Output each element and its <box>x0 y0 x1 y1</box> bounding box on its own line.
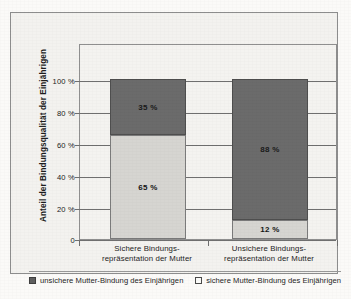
bar-segment-sichere-1[interactable]: 65 % <box>110 135 186 239</box>
category-label-unsichere-line1: Unsichere Bindungs- <box>204 244 334 254</box>
category-tick-left <box>79 240 80 246</box>
bar-segment-label-unsichere-2: 88 % <box>260 145 279 154</box>
tickmark-60 <box>75 145 80 146</box>
ytick-label-0: 0 <box>71 236 75 245</box>
y-axis-title: Anteil der Bindungsqualität der Einjähri… <box>39 41 48 231</box>
bar-segment-label-sichere-1: 65 % <box>138 183 157 192</box>
bar-series-unsichere-bindungsrepraesentation[interactable]: 88 % 12 % <box>232 79 308 239</box>
tickmark-100 <box>75 81 80 82</box>
legend-item-sichere[interactable]: sichere Mutter-Bindung des Einjährigen <box>195 276 341 285</box>
category-label-unsichere: Unsichere Bindungs- repräsentation der M… <box>204 244 334 264</box>
legend-label-sichere: sichere Mutter-Bindung des Einjährigen <box>206 276 341 285</box>
bar-segment-label-unsichere-1: 35 % <box>138 103 157 112</box>
plot-area: 100 % 80 % 60 % 40 % 20 % 0 <box>79 44 337 240</box>
ytick-label-100: 100 % <box>52 77 75 86</box>
tickmark-40 <box>75 177 80 178</box>
category-label-sichere-line1: Sichere Bindungs- <box>82 244 212 254</box>
tickmark-80 <box>75 113 80 114</box>
bar-segment-label-sichere-2: 12 % <box>260 225 279 234</box>
category-label-sichere: Sichere Bindungs- repräsentation der Mut… <box>82 244 212 264</box>
legend-item-unsichere[interactable]: unsichere Mutter-Bindung des Einjährigen <box>29 276 183 285</box>
bar-segment-unsichere-1[interactable]: 35 % <box>110 79 186 135</box>
bar-series-sichere-bindungsrepraesentation[interactable]: 35 % 65 % <box>110 79 186 239</box>
ytick-label-40: 40 % <box>57 173 75 182</box>
category-label-unsichere-line2: repräsentation der Mutter <box>204 254 334 264</box>
bar-segment-unsichere-2[interactable]: 88 % <box>232 79 308 220</box>
dark-square-icon <box>29 277 36 284</box>
tickmark-20 <box>75 209 80 210</box>
chart-legend: unsichere Mutter-Bindung des Einjährigen… <box>29 271 341 285</box>
ytick-label-60: 60 % <box>57 141 75 150</box>
light-square-icon <box>195 277 202 284</box>
category-tick-right <box>337 240 338 246</box>
bar-segment-sichere-2[interactable]: 12 % <box>232 220 308 239</box>
ytick-label-80: 80 % <box>57 109 75 118</box>
category-label-sichere-line2: repräsentation der Mutter <box>82 254 212 264</box>
scanned-page: Anteil der Bindungsqualität der Einjähri… <box>0 0 351 299</box>
legend-label-unsichere: unsichere Mutter-Bindung des Einjährigen <box>40 276 183 285</box>
figure-border: Anteil der Bindungsqualität der Einjähri… <box>10 12 338 274</box>
ytick-label-20: 20 % <box>57 205 75 214</box>
